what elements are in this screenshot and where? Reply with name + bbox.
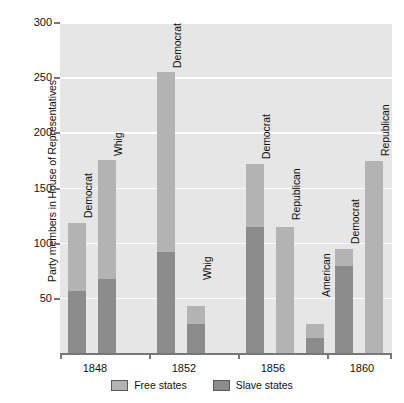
bar-label-1856-democrat: Democrat [260, 114, 272, 159]
legend: Free states Slave states [0, 379, 404, 391]
x-tick-mark-1848 [60, 353, 62, 359]
legend-swatch-icon-free [111, 380, 128, 391]
bar-1852-democrat [157, 72, 175, 353]
y-tick-label-100: 100 [12, 237, 52, 249]
y-tick-label-50: 50 [12, 292, 52, 304]
bar-1848-whig [98, 160, 116, 353]
y-tick-label-150: 150 [12, 182, 52, 194]
x-axis-line [60, 353, 392, 355]
x-tick-label-1848: 1848 [65, 362, 125, 374]
x-tick-label-1852: 1852 [154, 362, 214, 374]
bar-segment-free [365, 161, 383, 353]
bar-segment-slave [246, 227, 264, 353]
bar-label-1860-democrat: Democrat [349, 199, 361, 244]
y-tick-mark-150 [54, 188, 60, 190]
y-tick-mark-250 [54, 77, 60, 79]
bar-chart: Party members in House of Representative… [0, 0, 404, 403]
bar-1856-american [306, 324, 324, 353]
bar-segment-slave [157, 252, 175, 354]
bar-segment-slave [187, 324, 205, 353]
bar-label-1848-democrat: Democrat [82, 173, 94, 218]
legend-item-slave-states: Slave states [213, 379, 293, 391]
bar-label-1860-republican: Republican [379, 104, 391, 156]
bar-label-1852-democrat: Democrat [171, 23, 183, 68]
bar-1856-republican [276, 227, 294, 353]
bar-segment-slave [98, 279, 116, 353]
y-tick-mark-200 [54, 132, 60, 134]
x-tick-label-1860: 1860 [332, 362, 392, 374]
bar-label-1848-whig: Whig [112, 132, 124, 156]
y-tick-mark-50 [54, 298, 60, 300]
bar-segment-slave [68, 291, 86, 353]
bar-label-1856-republican: Republican [290, 168, 302, 220]
x-tick-mark-1856 [238, 353, 240, 359]
x-tick-label-1856: 1856 [243, 362, 303, 374]
bar-segment-free [276, 227, 294, 353]
y-tick-label-200: 200 [12, 126, 52, 138]
y-tick-label-250: 250 [12, 71, 52, 83]
gridline-250 [60, 77, 392, 79]
bar-1860-democrat [335, 249, 353, 353]
x-tick-mark-end [390, 353, 392, 359]
bar-label-1856-american: American [320, 253, 332, 297]
bar-1860-republican [365, 161, 383, 353]
y-tick-mark-300 [54, 22, 60, 24]
legend-label-slave-states: Slave states [236, 379, 293, 391]
plot-area: Democrat Whig Democrat Whig Democrat Rep… [60, 22, 392, 353]
gridline-300 [60, 22, 392, 24]
legend-item-free-states: Free states [111, 379, 187, 391]
bar-segment-slave [306, 338, 324, 353]
legend-swatch-icon-slave [213, 380, 230, 391]
y-tick-label-300: 300 [12, 16, 52, 28]
bar-1852-whig [187, 306, 205, 353]
gridline-200 [60, 132, 392, 134]
bar-segment-slave [335, 266, 353, 353]
y-tick-mark-100 [54, 243, 60, 245]
bar-1856-democrat [246, 164, 264, 353]
x-tick-mark-1860 [327, 353, 329, 359]
x-tick-mark-1852 [149, 353, 151, 359]
bar-1848-democrat [68, 223, 86, 353]
bar-label-1852-whig: Whig [201, 256, 213, 280]
legend-label-free-states: Free states [134, 379, 187, 391]
